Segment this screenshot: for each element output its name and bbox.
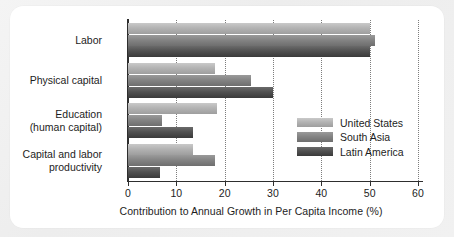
x-axis-tick [128,182,129,186]
chart-legend: United States South Asia Latin America [297,116,425,160]
legend-swatch-south-asia [297,132,333,142]
bar [128,167,160,178]
x-axis-tick [225,182,226,186]
x-axis-tick-label: 0 [113,187,143,199]
bar [128,63,215,74]
legend-item: Latin America [297,145,425,158]
category-label-line: Physical capital [0,74,102,87]
x-axis-tick-label: 20 [210,187,240,199]
category-label-line: (human capital) [0,121,102,134]
bar [128,87,273,98]
bar [128,103,217,114]
y-axis-category-label: Capital and laborproductivity [0,148,102,173]
x-axis-tick [273,182,274,186]
category-label-line: productivity [0,161,102,174]
x-axis-tick-label: 50 [355,187,385,199]
bar [128,46,370,57]
category-label-line: Education [0,108,102,121]
bar [128,155,215,166]
x-axis-tick-label: 60 [403,187,433,199]
legend-label-united-states: United States [340,117,403,129]
bar [128,144,193,155]
x-axis-line [127,181,423,182]
category-label-line: Labor [0,34,102,47]
bar [128,127,193,138]
legend-label-latin-america: Latin America [340,146,404,158]
bar [128,115,162,126]
bar [128,23,370,34]
x-axis-tick-label: 10 [161,187,191,199]
bar [128,35,375,46]
x-axis-title: Contribution to Annual Growth in Per Cap… [10,205,454,217]
category-label-line: Capital and labor [0,148,102,161]
y-axis-category-label: Physical capital [0,74,102,87]
legend-swatch-united-states [297,118,333,128]
x-axis-tick [321,182,322,186]
legend-item: United States [297,116,425,129]
bar [128,75,251,86]
x-axis-tick [370,182,371,186]
page-background: 0102030405060 LaborPhysical capitalEduca… [0,0,454,237]
x-axis-tick-label: 30 [258,187,288,199]
chart-card: 0102030405060 LaborPhysical capitalEduca… [10,6,444,228]
legend-item: South Asia [297,131,425,144]
x-axis-tick [418,182,419,186]
legend-swatch-latin-america [297,147,333,157]
y-axis-category-label: Labor [0,34,102,47]
x-axis-tick [176,182,177,186]
y-axis-category-label: Education(human capital) [0,108,102,133]
legend-label-south-asia: South Asia [340,131,390,143]
x-axis-tick-label: 40 [306,187,336,199]
